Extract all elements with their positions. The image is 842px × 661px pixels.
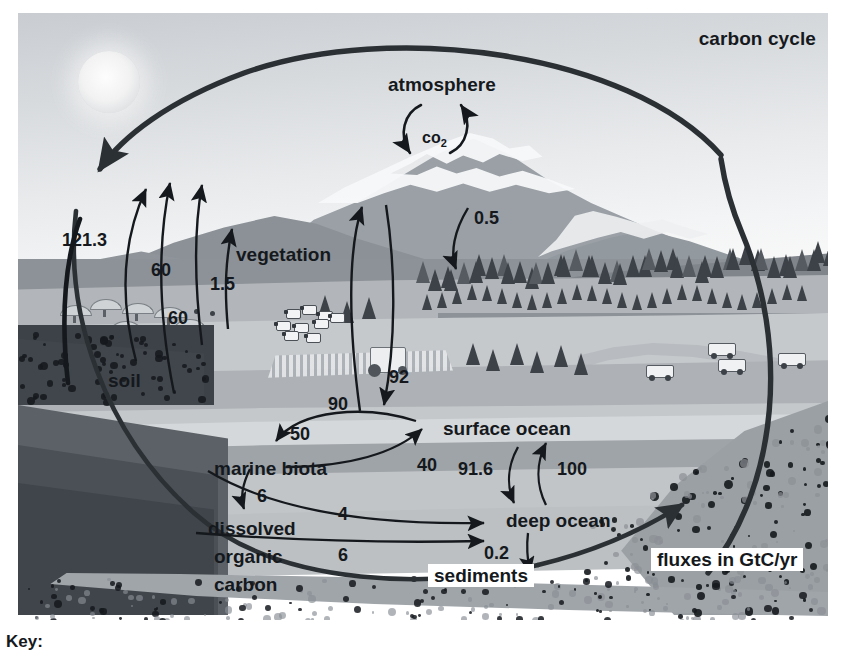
rock-particle <box>311 618 314 620</box>
rock-particle <box>195 579 202 586</box>
rock-particle <box>57 579 61 583</box>
rock-particle <box>821 450 825 454</box>
rock-particle <box>713 491 717 495</box>
flux-label-0-2: 0.2 <box>484 544 509 562</box>
label-soil: soil <box>108 371 141 390</box>
rock-particle <box>35 616 39 620</box>
rock-particle <box>651 577 658 584</box>
rock-particle <box>624 524 629 529</box>
label-surface-ocean: surface ocean <box>443 419 571 438</box>
conifer-tree <box>587 285 597 301</box>
rock-particle <box>626 575 632 581</box>
rock-particle <box>668 576 675 583</box>
flux-label-6-deep: 6 <box>338 546 348 564</box>
truck-icon <box>708 343 736 356</box>
rock-particle <box>583 578 589 584</box>
flux-label-92: 92 <box>389 368 409 386</box>
rock-particle <box>790 429 794 433</box>
rock-particle <box>805 542 812 549</box>
acacia-tree <box>60 305 90 323</box>
rock-particle <box>204 614 206 616</box>
rock-particle <box>747 481 755 489</box>
conifer-tree <box>782 284 792 300</box>
rock-particle <box>677 529 680 532</box>
conifer-tree <box>767 288 777 304</box>
conifer-tree <box>737 294 747 310</box>
conifer-tree <box>677 284 687 300</box>
truck-icon <box>646 365 674 378</box>
rock-particle <box>54 600 62 608</box>
rock-particle <box>263 615 271 620</box>
soil-particle <box>110 362 117 369</box>
rock-particle <box>70 585 74 589</box>
soil-particle <box>120 354 124 358</box>
cow-icon <box>330 313 345 323</box>
soil-particle <box>90 344 96 350</box>
rock-particle <box>650 492 656 498</box>
conifer-tree <box>482 285 492 301</box>
flux-label-50: 50 <box>290 425 310 443</box>
soil-particle <box>187 368 192 373</box>
rock-particle <box>550 580 554 584</box>
rock-particle <box>706 491 709 494</box>
rock-particle <box>679 619 686 620</box>
rock-particle <box>154 616 160 620</box>
conifer-tree <box>574 353 588 375</box>
flux-label-40: 40 <box>417 456 437 474</box>
rock-particle <box>617 533 621 537</box>
page-title: carbon cycle <box>699 29 816 48</box>
cow-icon <box>276 321 291 331</box>
cow-icon <box>314 319 329 329</box>
conifer-tree <box>572 284 582 300</box>
soil-particle <box>61 352 68 359</box>
rock-particle <box>815 493 820 498</box>
flux-label-60-soil: 60 <box>168 309 188 327</box>
rock-particle <box>817 607 825 615</box>
rock-particle <box>750 490 756 496</box>
conifer-tree <box>437 292 447 308</box>
rock-particle <box>790 440 794 444</box>
soil-particle <box>201 362 205 366</box>
rock-particle <box>743 575 746 578</box>
cow-icon <box>306 333 321 343</box>
acacia-tree <box>90 299 120 317</box>
rock-particle <box>461 616 467 620</box>
rock-particle <box>691 617 694 620</box>
soil-particle <box>198 396 205 403</box>
conifer-tree <box>632 294 642 310</box>
conifer-tree <box>542 292 552 308</box>
flux-label-100: 100 <box>557 460 587 478</box>
label-atmosphere: atmosphere <box>388 75 496 94</box>
cow-icon <box>286 309 301 319</box>
rock-particle <box>324 616 330 620</box>
soil-particle <box>151 376 155 380</box>
conifer-tree <box>554 345 568 367</box>
truck-icon <box>718 359 746 372</box>
rock-particle <box>764 461 771 468</box>
rock-particle <box>584 569 591 576</box>
soil-particle <box>173 390 177 394</box>
shrub-dot <box>194 309 199 314</box>
soil-particle <box>101 393 108 400</box>
truck-icon <box>778 353 806 366</box>
flux-label-90: 90 <box>328 395 348 413</box>
acacia-tree <box>122 303 152 321</box>
soil-particle <box>196 367 199 370</box>
rock-particle <box>758 577 766 585</box>
rock-particle <box>801 439 809 447</box>
rock-particle <box>799 592 806 599</box>
conifer-tree <box>466 343 480 365</box>
rock-particle <box>636 518 644 526</box>
label-marine-biota: marine biota <box>214 459 327 478</box>
conifer-tree <box>452 288 462 304</box>
conifer-tree <box>722 292 732 308</box>
rock-particle <box>788 462 794 468</box>
shrub-dot <box>210 311 215 316</box>
soil-particle <box>100 357 106 363</box>
soil-particle <box>75 333 81 339</box>
units-note: fluxes in GtC/yr <box>651 548 803 571</box>
conifer-tree <box>602 288 612 304</box>
rock-particle <box>349 580 356 587</box>
rock-particle <box>616 581 619 584</box>
rock-particle <box>693 469 698 474</box>
